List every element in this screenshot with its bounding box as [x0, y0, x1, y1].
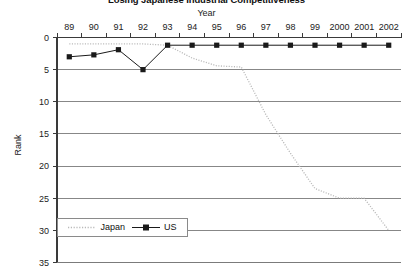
svg-text:94: 94	[187, 22, 197, 32]
svg-text:30: 30	[39, 226, 49, 236]
chart-legend: Japan US	[57, 218, 188, 237]
svg-text:10: 10	[39, 97, 49, 107]
svg-text:35: 35	[39, 258, 49, 268]
legend-entry-japan: Japan	[68, 223, 125, 232]
y-axis-tick-labels: 05101520253035	[39, 33, 49, 268]
svg-text:95: 95	[212, 22, 222, 32]
x-axis-tick-labels: 8990919293949596979899200020012002	[64, 22, 398, 32]
svg-text:92: 92	[138, 22, 148, 32]
svg-text:99: 99	[310, 22, 320, 32]
svg-text:97: 97	[261, 22, 271, 32]
svg-text:2000: 2000	[330, 22, 350, 32]
series-markers-us	[67, 43, 392, 73]
svg-text:0: 0	[44, 33, 49, 43]
svg-text:5: 5	[44, 65, 49, 75]
svg-text:96: 96	[236, 22, 246, 32]
legend-label-japan: Japan	[100, 223, 125, 232]
svg-text:20: 20	[39, 161, 49, 171]
legend-swatch-japan-dotted-line	[68, 223, 96, 232]
legend-label-us: US	[164, 223, 177, 232]
svg-text:90: 90	[89, 22, 99, 32]
svg-text:89: 89	[64, 22, 74, 32]
svg-text:98: 98	[285, 22, 295, 32]
svg-text:25: 25	[39, 194, 49, 204]
legend-swatch-us-line-marker	[132, 223, 160, 232]
svg-text:93: 93	[163, 22, 173, 32]
x-axis-ticks	[57, 33, 401, 38]
series-line-japan	[69, 44, 388, 230]
legend-entry-us: US	[132, 223, 177, 232]
chart-container: Losing Japanese Industrial Competitivene…	[0, 0, 413, 273]
svg-text:15: 15	[39, 129, 49, 139]
svg-text:2002: 2002	[379, 22, 399, 32]
svg-text:2001: 2001	[354, 22, 374, 32]
svg-text:91: 91	[113, 22, 123, 32]
